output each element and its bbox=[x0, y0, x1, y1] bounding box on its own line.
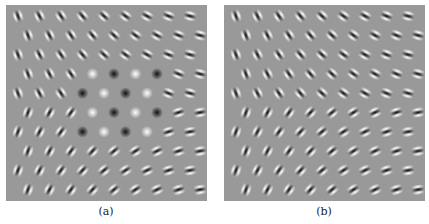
gabor-filter bbox=[106, 65, 123, 82]
gabor-filter bbox=[11, 85, 25, 101]
gabor-filter bbox=[302, 27, 318, 44]
gabor-filter bbox=[193, 106, 207, 118]
gabor-filter bbox=[250, 85, 265, 101]
gabor-filter bbox=[357, 8, 373, 23]
gabor-filter bbox=[32, 8, 47, 24]
gabor-filter bbox=[314, 162, 331, 178]
gabor-filter bbox=[367, 105, 383, 120]
gabor-filter bbox=[335, 163, 352, 179]
gabor-filter bbox=[192, 67, 207, 80]
gabor-filter bbox=[96, 8, 113, 24]
gabor-filter bbox=[302, 143, 318, 160]
gabor-filter bbox=[324, 143, 341, 159]
gabor-filter bbox=[161, 86, 177, 100]
gabor-filter bbox=[149, 105, 165, 121]
gabor-filter bbox=[74, 85, 91, 102]
panel-b-label: (b) bbox=[304, 205, 344, 218]
gabor-filter bbox=[379, 125, 395, 139]
gabor-filter bbox=[11, 47, 25, 63]
gabor-filter bbox=[139, 124, 155, 140]
gabor-filter bbox=[357, 163, 373, 178]
gabor-filter bbox=[192, 29, 207, 42]
gabor-filter bbox=[161, 125, 177, 139]
gabor-filter bbox=[32, 162, 47, 178]
gabor-filter bbox=[42, 182, 57, 198]
gabor-filter bbox=[84, 104, 101, 121]
gabor-filter bbox=[324, 182, 341, 198]
gabor-filter bbox=[182, 9, 197, 22]
gabor-filter bbox=[149, 182, 165, 197]
gabor-filter bbox=[389, 106, 405, 120]
gabor-filter bbox=[32, 46, 47, 62]
gabor-filter bbox=[302, 66, 318, 83]
gabor-filter bbox=[84, 27, 100, 44]
gabor-filter bbox=[21, 66, 35, 82]
gabor-filter bbox=[271, 123, 287, 140]
gabor-filter bbox=[324, 104, 341, 120]
gabor-filter bbox=[106, 104, 123, 121]
gabor-filter bbox=[314, 46, 331, 62]
gabor-filter bbox=[63, 27, 79, 44]
gabor-filter bbox=[229, 124, 243, 140]
gabor-filter bbox=[271, 85, 287, 102]
panel-a-label: (a) bbox=[86, 205, 126, 218]
gabor-filter bbox=[127, 104, 144, 121]
gabor-filter bbox=[117, 85, 134, 102]
gabor-filter bbox=[32, 124, 47, 140]
gabor-filter bbox=[149, 28, 165, 43]
gabor-filter bbox=[400, 9, 415, 22]
gabor-filter bbox=[171, 28, 187, 42]
gabor-filter bbox=[400, 86, 415, 99]
gabor-filter bbox=[302, 181, 318, 198]
gabor-filter bbox=[106, 182, 123, 198]
gabor-filter bbox=[411, 106, 425, 118]
gabor-filter bbox=[53, 8, 69, 25]
gabor-filter bbox=[53, 162, 69, 179]
gabor-filter bbox=[281, 66, 297, 83]
gabor-filter bbox=[379, 47, 395, 61]
filter-grid-b bbox=[224, 5, 425, 201]
gabor-filter bbox=[149, 144, 165, 159]
gabor-filter bbox=[21, 105, 35, 121]
gabor-filter bbox=[314, 124, 331, 140]
gabor-filter bbox=[229, 85, 243, 101]
gabor-filter bbox=[149, 66, 165, 82]
gabor-filter bbox=[335, 85, 352, 101]
gabor-filter bbox=[281, 143, 297, 160]
gabor-filter bbox=[335, 47, 352, 63]
gabor-filter bbox=[229, 8, 243, 24]
gabor-filter bbox=[171, 183, 187, 197]
gabor-filter bbox=[21, 182, 35, 198]
gabor-filter bbox=[260, 66, 275, 82]
gabor-filter bbox=[345, 27, 362, 43]
gabor-filter bbox=[292, 85, 308, 102]
gabor-filter bbox=[292, 46, 308, 63]
gabor-filter bbox=[139, 8, 155, 23]
gabor-filter bbox=[117, 47, 134, 63]
gabor-filter bbox=[74, 8, 90, 25]
gabor-filter bbox=[410, 67, 425, 80]
gabor-filter bbox=[250, 8, 265, 24]
gabor-filter bbox=[271, 162, 287, 179]
gabor-filter bbox=[11, 124, 25, 140]
gabor-filter bbox=[400, 48, 415, 61]
gabor-filter bbox=[74, 46, 90, 63]
gabor-filter bbox=[302, 104, 318, 121]
gabor-filter bbox=[239, 182, 253, 198]
gabor-filter bbox=[401, 126, 416, 138]
gabor-filter bbox=[182, 48, 197, 61]
gabor-filter bbox=[11, 8, 25, 24]
gabor-filter bbox=[239, 105, 253, 121]
gabor-filter bbox=[357, 47, 373, 62]
gabor-filter bbox=[379, 86, 395, 100]
gabor-filter bbox=[193, 145, 207, 157]
gabor-filter bbox=[183, 164, 198, 176]
gabor-filter bbox=[117, 163, 134, 179]
gabor-filter bbox=[127, 182, 144, 198]
gabor-filter bbox=[345, 143, 362, 159]
gabor-filter bbox=[379, 9, 395, 23]
gabor-filter bbox=[260, 104, 275, 120]
gabor-filter bbox=[42, 104, 57, 120]
panel-a-filter-grid bbox=[6, 5, 207, 201]
gabor-filter bbox=[250, 46, 265, 62]
